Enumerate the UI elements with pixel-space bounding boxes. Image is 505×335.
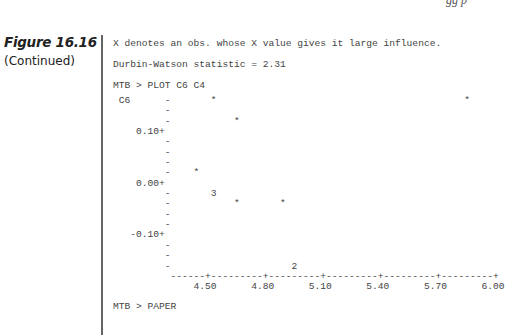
margin-rule (101, 35, 103, 335)
plot-command: MTB > PLOT C6 C4 (113, 80, 205, 91)
durbin-watson-line: Durbin-Watson statistic = 2.31 (113, 59, 286, 70)
influence-note: X denotes an obs. whose X value gives it… (113, 38, 441, 49)
paper-command: MTB > PAPER (113, 301, 176, 312)
character-scatter-plot: C6 - * * - - * 0.10+ - - - - * 0.00+ - 3… (113, 96, 505, 293)
figure-sublabel: (Continued) (4, 54, 75, 68)
running-header: gg p (446, 0, 467, 8)
figure-label: Figure 16.16 (4, 34, 97, 50)
